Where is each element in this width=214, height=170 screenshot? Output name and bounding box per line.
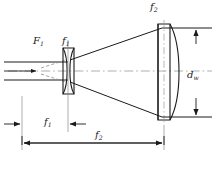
label-dw: dw	[187, 70, 199, 81]
expanding-beam	[70, 28, 162, 117]
dimension-f2	[22, 136, 164, 145]
label-f1-top: f1	[62, 36, 70, 47]
positive-lens-f2	[158, 24, 179, 120]
label-f1-dimension: f1	[44, 117, 52, 128]
label-f2-dimension: f2	[95, 130, 103, 141]
label-f2-top: f2	[150, 2, 158, 13]
optical-diagram-svg	[0, 0, 214, 170]
witness-lines	[22, 40, 164, 150]
label-F1: F1	[33, 36, 44, 47]
figure-canvas: f2 F1 f1 dw f1 f2	[0, 0, 214, 170]
